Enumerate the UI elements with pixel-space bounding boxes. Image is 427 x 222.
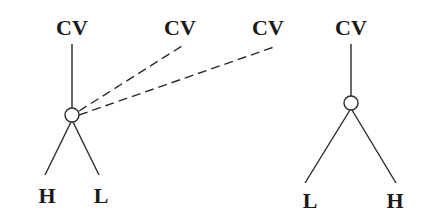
middle-labels: CV CV bbox=[164, 15, 284, 40]
left-link-to-h bbox=[45, 122, 71, 175]
left-root-node bbox=[65, 108, 79, 122]
left-child-h: H bbox=[38, 183, 55, 208]
right-child-h: H bbox=[386, 188, 403, 213]
middle-cv-label-1: CV bbox=[164, 15, 196, 40]
dashed-link-to-cv-3 bbox=[79, 47, 274, 115]
right-root-node bbox=[344, 96, 358, 110]
left-link-to-l bbox=[73, 122, 99, 175]
left-cv-label: CV bbox=[56, 15, 88, 40]
right-tree: CV L H bbox=[303, 15, 404, 213]
tone-association-diagram: CV H L CV CV CV L H bbox=[0, 0, 427, 222]
left-tree: CV H L bbox=[38, 15, 274, 208]
dashed-link-to-cv-2 bbox=[79, 46, 182, 111]
left-child-l: L bbox=[94, 183, 109, 208]
middle-cv-label-2: CV bbox=[252, 15, 284, 40]
right-link-to-l bbox=[305, 110, 350, 183]
right-cv-label: CV bbox=[335, 15, 367, 40]
right-link-to-h bbox=[352, 110, 396, 183]
right-child-l: L bbox=[303, 188, 318, 213]
